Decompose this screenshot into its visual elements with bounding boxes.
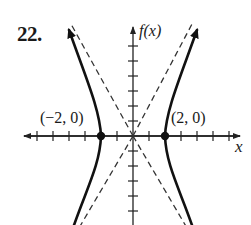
point-label-right: (2, 0) [171, 110, 206, 126]
right-branch [165, 30, 197, 225]
left-branch [69, 30, 101, 225]
point-label-left: (−2, 0) [40, 110, 84, 126]
problem-number: 22. [17, 24, 42, 45]
y-axis-label: f(x) [139, 23, 161, 39]
x-axis [24, 131, 240, 141]
asymptote-lower-right [133, 136, 187, 225]
vertex-point-left [97, 132, 105, 140]
asymptote-lower-left [79, 136, 133, 225]
x-axis-label: x [235, 138, 243, 155]
y-axis [128, 27, 138, 225]
hyperbola-figure: 22. f(x) (−2, 0) (2, 0) x [0, 0, 251, 225]
vertex-point-right [161, 132, 169, 140]
